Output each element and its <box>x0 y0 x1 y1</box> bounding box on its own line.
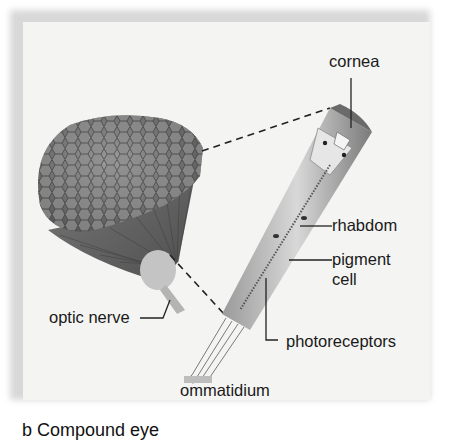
label-pigment: pigment <box>332 250 391 268</box>
label-rhabdom: rhabdom <box>332 216 397 234</box>
label-ommatidium: ommatidium <box>180 381 270 399</box>
label-cornea: cornea <box>329 52 379 70</box>
dashed-connector-top <box>202 108 330 151</box>
figure-caption: b Compound eye <box>22 420 159 441</box>
label-photoreceptors: photoreceptors <box>286 332 396 350</box>
label-cell: cell <box>332 270 357 288</box>
label-optic-nerve: optic nerve <box>49 308 130 326</box>
